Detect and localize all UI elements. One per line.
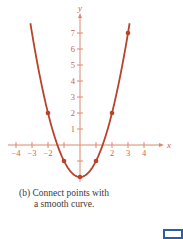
caption-label: (b) [19, 188, 30, 198]
data-point [126, 31, 131, 36]
page-marker-box [163, 229, 183, 239]
svg-text:4: 4 [71, 76, 76, 86]
caption-line-2: a smooth curve. [19, 199, 109, 210]
data-point [62, 159, 67, 164]
y-axis-label: y [77, 3, 82, 13]
data-point [94, 159, 99, 164]
svg-text:−2: −2 [43, 148, 52, 158]
svg-text:7: 7 [71, 28, 75, 38]
svg-text:4: 4 [142, 148, 147, 158]
figure-caption: (b) Connect points with a smooth curve. [19, 188, 109, 210]
svg-text:3: 3 [71, 92, 75, 102]
tick-labels: −4−3−22341234567 [11, 28, 146, 158]
x-axis-label: x [166, 140, 171, 150]
svg-text:2: 2 [110, 148, 114, 158]
svg-text:3: 3 [126, 148, 130, 158]
data-point [46, 111, 51, 116]
svg-text:2: 2 [71, 108, 75, 118]
svg-text:6: 6 [71, 44, 75, 54]
svg-text:1: 1 [71, 124, 75, 134]
plotted-points [46, 31, 131, 180]
data-point [78, 175, 83, 180]
data-point [110, 111, 115, 116]
caption-line-1: Connect points with [32, 188, 109, 198]
svg-text:5: 5 [71, 60, 75, 70]
svg-text:−4: −4 [11, 148, 21, 158]
svg-text:−3: −3 [27, 148, 36, 158]
parabola-graph: −4−3−22341234567 x y [0, 0, 183, 185]
